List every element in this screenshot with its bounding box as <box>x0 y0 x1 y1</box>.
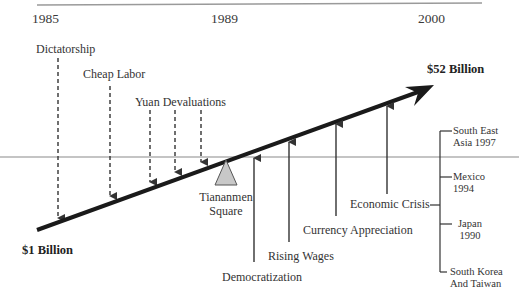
crisis-japan: Japan 1990 <box>452 218 488 242</box>
crisis-korea-taiwan: South Korea And Taiwan <box>450 266 503 290</box>
start-value-label: $1 Billion <box>22 243 73 257</box>
top-rule <box>37 3 482 5</box>
crisis-korea-taiwan-line2: And Taiwan <box>450 278 503 290</box>
year-mid-label: 1989 <box>211 12 238 26</box>
economic-crisis-label: Economic Crisis <box>350 197 430 211</box>
crisis-mexico-line2: 1994 <box>453 183 485 195</box>
tiananmen-line2: Square <box>194 204 258 218</box>
crisis-mexico-line1: Mexico <box>453 171 485 183</box>
tiananmen-square-label: Tiananmen Square <box>194 190 258 218</box>
currency-appreciation-label: Currency Appreciation <box>303 223 413 237</box>
crisis-japan-line2: 1990 <box>452 230 488 242</box>
crisis-bracket <box>430 131 452 272</box>
tiananmen-line1: Tiananmen <box>194 190 258 204</box>
dictatorship-label: Dictatorship <box>36 42 95 56</box>
crisis-se-asia: South East Asia 1997 <box>453 125 498 149</box>
year-end-label: 2000 <box>418 12 445 26</box>
democratization-label: Democratization <box>222 270 302 284</box>
crisis-mexico: Mexico 1994 <box>453 171 485 195</box>
crisis-se-asia-line2: Asia 1997 <box>453 137 498 149</box>
crisis-japan-line1: Japan <box>452 218 488 230</box>
crisis-korea-taiwan-line1: South Korea <box>450 266 503 278</box>
yuan-devaluations-label: Yuan Devaluations <box>135 95 226 109</box>
year-start-label: 1985 <box>32 12 59 26</box>
crisis-se-asia-line1: South East <box>453 125 498 137</box>
end-value-label: $52 Billion <box>427 62 484 76</box>
cheap-labor-label: Cheap Labor <box>83 67 145 81</box>
push-down-arrows <box>58 58 201 218</box>
rising-wages-label: Rising Wages <box>268 249 334 263</box>
